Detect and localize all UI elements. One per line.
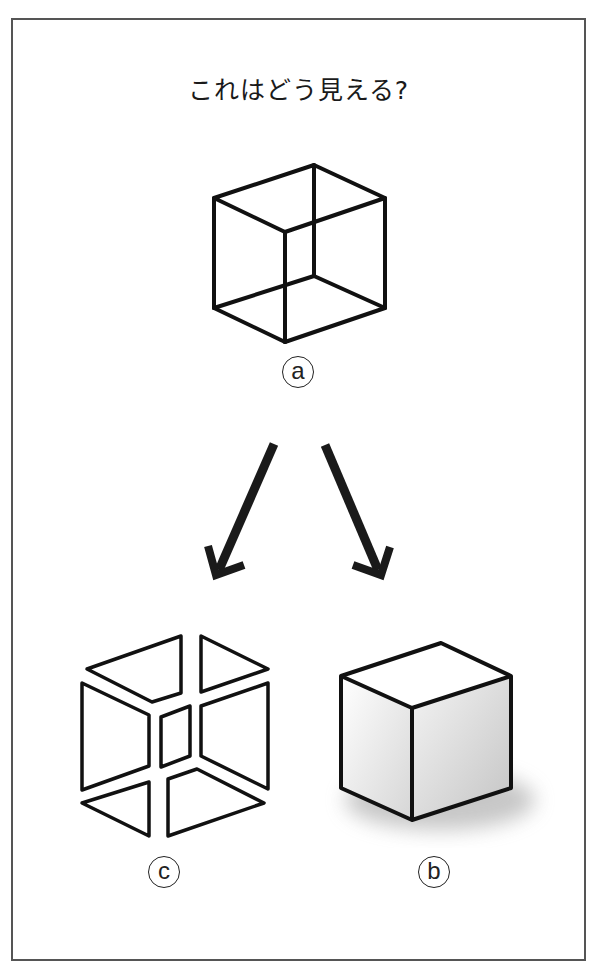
label-b: b (418, 856, 450, 888)
solid-cube-b (341, 643, 535, 830)
label-a: a (282, 356, 314, 388)
illustration (0, 0, 597, 976)
arrow-to-c (208, 444, 274, 575)
necker-cube-a (214, 165, 385, 342)
arrow-to-b (325, 445, 390, 575)
label-c: c (148, 856, 180, 888)
fragmented-cube-c (82, 636, 268, 836)
